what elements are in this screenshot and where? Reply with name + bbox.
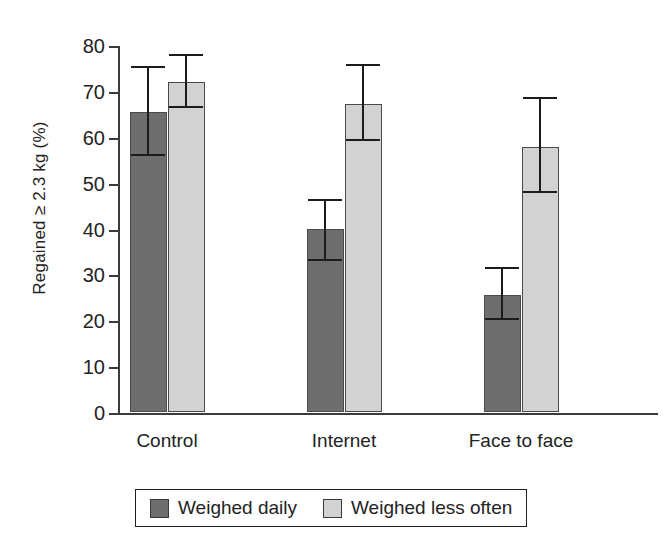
y-axis-title: Regained ≥ 2.3 kg (%) <box>30 8 50 408</box>
legend-swatch <box>150 499 169 518</box>
error-bar <box>130 68 167 412</box>
x-axis-label: Control <box>136 430 197 452</box>
y-tick-mark <box>109 367 118 369</box>
y-tick-mark <box>109 275 118 277</box>
error-bar <box>484 269 521 412</box>
legend-swatch <box>323 499 342 518</box>
y-tick-label: 30 <box>83 264 105 287</box>
error-bar-stem <box>324 201 326 261</box>
y-axis-line <box>118 46 120 415</box>
error-bar-stem <box>362 66 364 142</box>
error-bar-cap-upper <box>131 66 165 68</box>
chart-legend: Weighed dailyWeighed less often <box>135 489 527 527</box>
y-tick-label: 0 <box>94 402 105 425</box>
error-bar-cap-lower <box>523 191 557 193</box>
error-bar <box>522 99 559 412</box>
error-bar-cap-upper <box>308 199 342 201</box>
x-axis-label: Internet <box>312 430 376 452</box>
y-tick-mark <box>109 184 118 186</box>
y-tick-label: 80 <box>83 35 105 58</box>
error-bar-cap-lower <box>346 139 380 141</box>
error-bar-cap-lower <box>308 259 342 261</box>
y-tick-label: 20 <box>83 310 105 333</box>
error-bar-stem <box>501 269 503 320</box>
error-bar-stem <box>185 56 187 107</box>
error-bar-cap-lower <box>485 318 519 320</box>
y-tick-label: 40 <box>83 218 105 241</box>
y-tick-label: 60 <box>83 126 105 149</box>
legend-label: Weighed less often <box>351 497 512 519</box>
x-axis-label: Face to face <box>469 430 574 452</box>
y-tick-mark <box>109 321 118 323</box>
error-bar-stem <box>147 68 149 156</box>
error-bar-cap-upper <box>485 267 519 269</box>
error-bar <box>307 201 344 412</box>
error-bar-cap-upper <box>523 97 557 99</box>
y-tick-label: 70 <box>83 80 105 103</box>
error-bar-cap-upper <box>346 64 380 66</box>
error-bar <box>168 56 205 412</box>
error-bar-cap-lower <box>131 154 165 156</box>
x-axis-line <box>118 413 658 415</box>
error-bar-stem <box>539 99 541 193</box>
y-tick-label: 10 <box>83 356 105 379</box>
error-bar-cap-lower <box>169 106 203 108</box>
y-tick-mark <box>109 230 118 232</box>
chart-figure: Regained ≥ 2.3 kg (%) 01020304050607080 … <box>0 0 668 547</box>
legend-item: Weighed less often <box>323 497 512 519</box>
y-tick-mark <box>109 92 118 94</box>
plot-area: 01020304050607080 ControlInternetFace to… <box>118 46 658 414</box>
error-bar-cap-upper <box>169 54 203 56</box>
y-tick-mark <box>109 46 118 48</box>
y-tick-mark <box>109 138 118 140</box>
y-tick-mark <box>109 413 118 415</box>
y-tick-label: 50 <box>83 172 105 195</box>
error-bar <box>345 66 382 412</box>
legend-item: Weighed daily <box>150 497 297 519</box>
legend-label: Weighed daily <box>178 497 297 519</box>
